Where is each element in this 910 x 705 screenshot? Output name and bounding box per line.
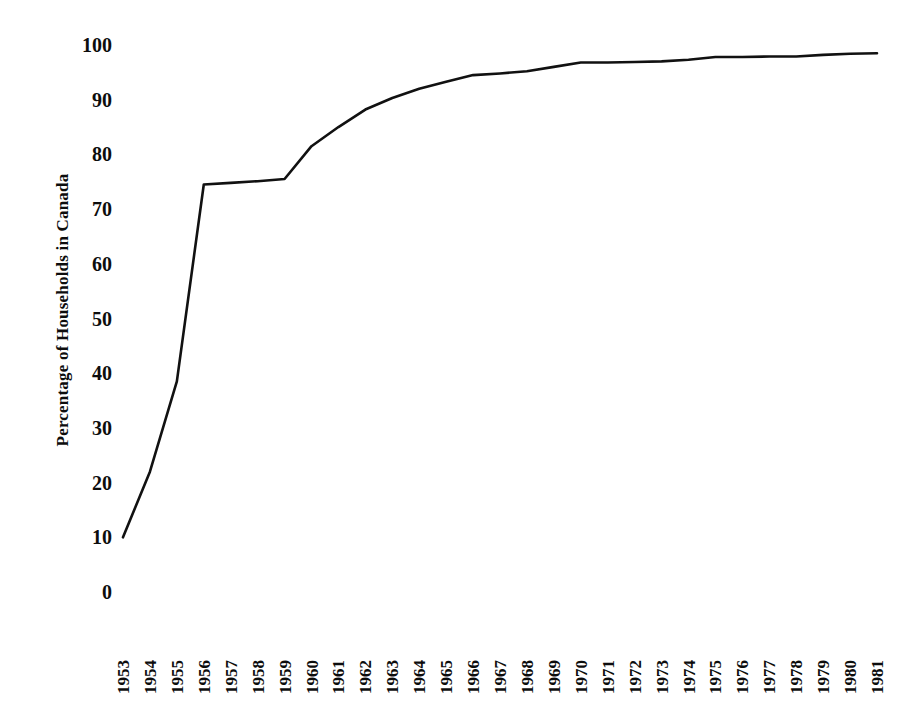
- x-tick-label: 1981: [869, 624, 887, 694]
- x-tick-label: 1977: [761, 624, 779, 694]
- x-tick-label: 1954: [142, 624, 160, 694]
- data-line-series-1: [123, 53, 877, 537]
- x-tick-label: 1967: [492, 624, 510, 694]
- x-tick-label: 1961: [330, 624, 348, 694]
- x-tick-label: 1957: [223, 624, 241, 694]
- x-tick-label: 1966: [465, 624, 483, 694]
- plot-area: [0, 0, 910, 705]
- x-tick-label: 1972: [627, 624, 645, 694]
- x-tick-label: 1962: [357, 624, 375, 694]
- x-tick-label: 1976: [734, 624, 752, 694]
- x-tick-label: 1975: [707, 624, 725, 694]
- x-tick-label: 1980: [842, 624, 860, 694]
- x-tick-label: 1955: [169, 624, 187, 694]
- x-tick-label: 1969: [546, 624, 564, 694]
- x-tick-label: 1965: [438, 624, 456, 694]
- x-tick-label: 1960: [304, 624, 322, 694]
- x-tick-label: 1964: [411, 624, 429, 694]
- x-tick-label: 1953: [115, 624, 133, 694]
- x-tick-label: 1959: [277, 624, 295, 694]
- x-tick-label: 1979: [815, 624, 833, 694]
- x-tick-label: 1974: [681, 624, 699, 694]
- x-tick-label: 1970: [573, 624, 591, 694]
- x-tick-label: 1971: [600, 624, 618, 694]
- chart-container: Percentage of Households in Canada 01020…: [0, 0, 910, 705]
- x-tick-label: 1958: [250, 624, 268, 694]
- x-tick-label: 1956: [196, 624, 214, 694]
- x-tick-label: 1963: [384, 624, 402, 694]
- x-tick-label: 1978: [788, 624, 806, 694]
- x-tick-label: 1968: [519, 624, 537, 694]
- x-tick-label: 1973: [654, 624, 672, 694]
